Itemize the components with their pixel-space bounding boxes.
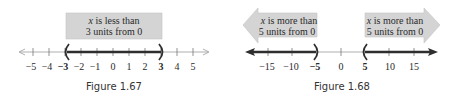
tick-labels: −15 −10 −5 0 5 10 15 bbox=[259, 61, 419, 72]
callout-line-1: x is less than bbox=[88, 15, 140, 26]
callout-line-2: 3 units from 0 bbox=[86, 26, 142, 37]
figure-1-68: x is more than 5 units from 0 x is more … bbox=[243, 8, 440, 92]
tick-labels: −5 −4 −3 −2 −1 0 1 2 3 4 5 bbox=[26, 61, 196, 72]
tick-label: 0 bbox=[339, 61, 344, 72]
tick-label: −15 bbox=[259, 61, 275, 72]
tick-label: −2 bbox=[74, 61, 85, 72]
callout-line-2: 5 units from 0 bbox=[367, 26, 423, 37]
callout-line-2: 5 units from 0 bbox=[259, 26, 315, 37]
tick-label: −10 bbox=[283, 61, 299, 72]
tick-label: 3 bbox=[159, 61, 164, 72]
figure-caption: Figure 1.67 bbox=[86, 81, 142, 92]
figure-caption: Figure 1.68 bbox=[314, 81, 370, 92]
tick-label: 5 bbox=[191, 61, 196, 72]
callout-line-1: x is more than bbox=[366, 15, 423, 26]
number-line-figures: x is less than 3 units from 0 bbox=[0, 0, 456, 99]
callout-line-1: x is more than bbox=[260, 15, 317, 26]
callout-left-arrow: x is more than 5 units from 0 bbox=[243, 8, 317, 43]
figure-1-67: x is less than 3 units from 0 bbox=[19, 13, 209, 92]
tick-label: −3 bbox=[58, 61, 69, 72]
callout-less-than-3: x is less than 3 units from 0 bbox=[66, 13, 162, 39]
tick-label: −4 bbox=[42, 61, 53, 72]
tick-label: −5 bbox=[26, 61, 37, 72]
tick-label: −1 bbox=[90, 61, 101, 72]
tick-label: 15 bbox=[409, 61, 419, 72]
tick-label: −5 bbox=[310, 61, 321, 72]
tick-label: 4 bbox=[175, 61, 180, 72]
tick-label: 0 bbox=[111, 61, 116, 72]
tick-label: 10 bbox=[385, 61, 395, 72]
callout-right-arrow: x is more than 5 units from 0 bbox=[365, 8, 440, 43]
tick-label: 2 bbox=[143, 61, 148, 72]
tick-label: 1 bbox=[127, 61, 132, 72]
tick-label: 5 bbox=[363, 61, 368, 72]
